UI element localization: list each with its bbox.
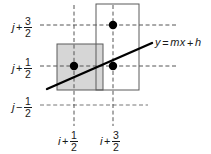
x-tick-op-1: + xyxy=(103,136,112,147)
grid-point-upper xyxy=(109,21,117,29)
x-tick-den-1: 2 xyxy=(112,141,120,153)
y-tick-den-0: 2 xyxy=(24,27,32,39)
y-tick-num-0: 3 xyxy=(24,16,32,27)
y-tick-den-2: 2 xyxy=(24,107,32,119)
equation-m: m xyxy=(170,36,179,48)
equation-h: h xyxy=(195,36,201,48)
y-tick-num-1: 1 xyxy=(24,57,32,68)
y-tick-j-plus-1-2: j + 1 2 xyxy=(12,57,32,80)
grid-point-left xyxy=(70,62,78,70)
equation-equals: = xyxy=(161,37,171,49)
y-tick-op-2: − xyxy=(15,102,24,113)
x-tick-op-0: + xyxy=(61,136,70,147)
x-tick-i-plus-3-2: i + 3 2 xyxy=(100,130,120,153)
grid-point-right xyxy=(109,62,117,70)
y-tick-den-1: 2 xyxy=(24,68,32,80)
y-tick-j-minus-1-2: j − 1 2 xyxy=(12,96,32,119)
y-tick-fraction-0: 3 2 xyxy=(24,16,32,39)
geometry-figure: j + 3 2 j + 1 2 j − 1 2 xyxy=(0,0,211,154)
y-tick-op-0: + xyxy=(15,22,24,33)
equation-plus: + xyxy=(185,37,195,49)
line-equation-label: y=mx+h xyxy=(155,37,201,49)
y-tick-op-1: + xyxy=(15,63,24,74)
y-tick-num-2: 1 xyxy=(24,96,32,107)
y-tick-j-plus-3-2: j + 3 2 xyxy=(12,16,32,39)
x-tick-den-0: 2 xyxy=(70,141,78,153)
x-tick-num-1: 3 xyxy=(112,130,120,141)
x-tick-fraction-1: 3 2 xyxy=(112,130,120,153)
equation-y: y xyxy=(155,36,161,48)
x-tick-i-plus-1-2: i + 1 2 xyxy=(58,130,78,153)
y-tick-fraction-2: 1 2 xyxy=(24,96,32,119)
y-tick-fraction-1: 1 2 xyxy=(24,57,32,80)
x-tick-fraction-0: 1 2 xyxy=(70,130,78,153)
x-tick-num-0: 1 xyxy=(70,130,78,141)
